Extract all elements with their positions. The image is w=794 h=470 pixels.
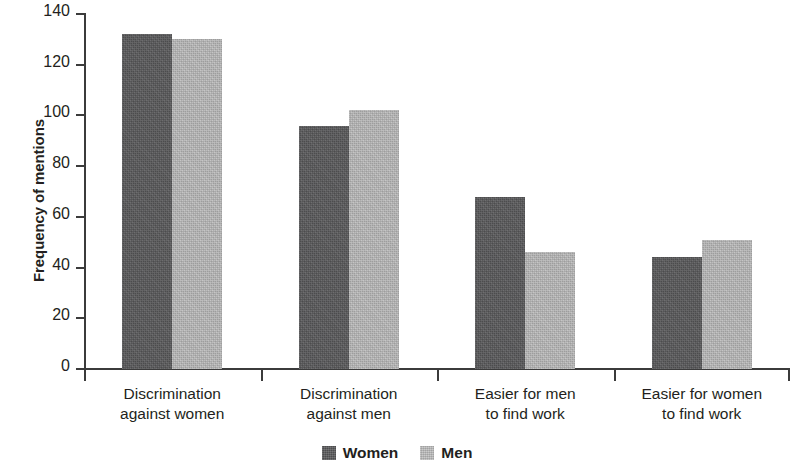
x-axis-category-label-line: Discrimination [84,384,261,404]
x-axis-category-label-line: Discrimination [261,384,438,404]
x-axis-category-label: Easier for mento find work [437,384,614,424]
x-axis-tick [261,370,263,381]
x-axis-tick [614,370,616,381]
x-axis-category-label-line: Easier for men [437,384,614,404]
y-axis-tick: 60 [76,216,84,218]
y-axis-tick: 20 [76,317,84,319]
y-axis-tick: 80 [76,165,84,167]
legend-label-men: Men [441,444,472,462]
bar-women-4 [652,257,702,369]
y-axis-tick-label: 120 [43,53,70,71]
y-axis-tick: 0 [76,368,84,370]
x-axis-category-label: Discriminationagainst women [84,384,261,424]
bar-chart: Frequency of mentions 020406080100120140… [0,0,794,470]
y-axis-tick: 40 [76,267,84,269]
y-axis-tick: 100 [76,114,84,116]
legend-item-men: Men [420,444,472,462]
x-axis-category-label-line: against men [261,404,438,424]
x-axis-tick [84,370,86,381]
y-axis-tick-label: 80 [52,154,70,172]
bar-women-2 [299,126,349,369]
legend-item-women: Women [322,444,399,462]
x-axis-category-label-line: Easier for women [614,384,791,404]
bar-women-3 [475,197,525,369]
y-axis-tick-label: 60 [52,205,70,223]
y-axis-tick-label: 100 [43,103,70,121]
y-axis-tick-label: 20 [52,306,70,324]
legend-swatch-women-icon [322,446,336,460]
bar-men-4 [702,240,752,369]
x-axis-tick [788,370,790,381]
x-axis-category-label: Discriminationagainst men [261,384,438,424]
y-axis-tick-label: 40 [52,256,70,274]
x-axis-category-label-line: against women [84,404,261,424]
chart-legend: Women Men [0,444,794,462]
legend-swatch-men-icon [420,446,434,460]
x-axis-category-label-line: to find work [614,404,791,424]
plot-area: 020406080100120140 [84,14,790,369]
y-axis-tick: 120 [76,64,84,66]
bar-men-3 [525,252,575,369]
bar-women-1 [122,34,172,369]
bar-men-1 [172,39,222,369]
legend-label-women: Women [343,444,399,462]
x-axis-category-label-line: to find work [437,404,614,424]
x-axis-tick [437,370,439,381]
y-axis-tick-label: 0 [61,357,70,375]
y-axis-tick: 140 [76,13,84,15]
x-axis-category-label: Easier for womento find work [614,384,791,424]
bar-men-2 [349,110,399,369]
y-axis-tick-label: 140 [43,2,70,20]
